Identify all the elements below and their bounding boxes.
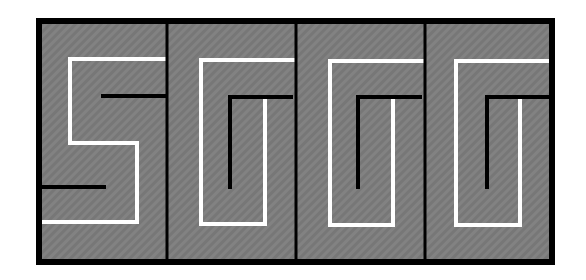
figure: [0, 0, 586, 280]
maze-diagram: [0, 0, 586, 280]
